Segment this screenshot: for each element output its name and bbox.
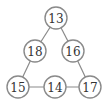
node-label: 16 xyxy=(65,45,80,59)
node-bottom-middle: 14 xyxy=(44,76,66,98)
node-label: 15 xyxy=(10,81,25,95)
node-mid-right: 16 xyxy=(62,40,84,62)
node-label: 17 xyxy=(82,81,97,95)
node-bottom-left: 15 xyxy=(7,76,29,98)
node-mid-left: 18 xyxy=(24,40,46,62)
node-top: 13 xyxy=(45,7,67,29)
node-label: 13 xyxy=(48,12,63,26)
node-label: 14 xyxy=(47,81,63,95)
number-triangle-diagram: 13 18 16 15 14 17 xyxy=(0,0,103,101)
node-bottom-right: 17 xyxy=(79,76,101,98)
node-label: 18 xyxy=(27,45,42,59)
